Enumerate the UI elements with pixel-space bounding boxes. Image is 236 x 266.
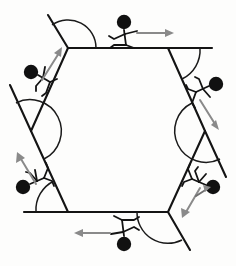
- hexagon-outline: [31, 48, 205, 212]
- arc-exterior-angle-bottom-right: [137, 212, 182, 243]
- arrow-head-up-left: [16, 152, 25, 163]
- walker-top-arm-back: [109, 34, 125, 39]
- walker-upper-left-head: [24, 65, 38, 79]
- arrow-head-down-right: [211, 120, 219, 130]
- arrow-head-down-left: [181, 208, 190, 218]
- ray-right: [205, 131, 226, 177]
- extension-rays: [10, 15, 226, 250]
- walker-upper-right: [186, 77, 223, 130]
- walker-bottom-head: [117, 237, 131, 251]
- walker-bottom-velocity-arrow: [74, 229, 110, 237]
- walker-upper-right-head: [209, 77, 223, 91]
- hexagon-exterior-angles-figure: [0, 0, 236, 266]
- arrow-head-right: [165, 29, 174, 37]
- arrow-shaft-down-right: [200, 100, 215, 124]
- walker-lower-right-arm-back: [199, 174, 206, 182]
- exterior-angle-arcs: [16, 20, 220, 243]
- walker-lower-left-leg-back: [44, 163, 48, 178]
- walker-bottom-leg-front: [114, 216, 122, 220]
- walker-top-velocity-arrow: [137, 29, 174, 37]
- walker-upper-right-arm-back: [203, 89, 210, 97]
- ray-left: [10, 85, 31, 131]
- walker-top-arm-front: [125, 31, 137, 34]
- walker-bottom: [74, 216, 139, 251]
- arrow-head-left: [74, 229, 83, 237]
- walker-lower-right-leg-front: [188, 164, 192, 179]
- walker-bottom-body: [122, 220, 124, 236]
- arc-exterior-angle-top-right: [182, 48, 200, 79]
- walker-bottom-arm-back: [123, 227, 139, 232]
- walker-bottom-leg-back: [122, 217, 139, 220]
- walker-upper-left: [24, 47, 62, 96]
- arc-exterior-angle-bottom-left: [36, 181, 54, 212]
- diagram-canvas: [0, 0, 236, 266]
- walker-lower-left-head: [16, 180, 30, 194]
- walker-top-body: [124, 30, 126, 45]
- edge-lower-right: [168, 131, 205, 212]
- walker-upper-right-leg-front: [192, 92, 196, 108]
- walker-top-head: [117, 15, 131, 29]
- walker-lower-right-velocity-arrow: [181, 188, 200, 218]
- walker-bottom-arm-front: [111, 232, 123, 234]
- walker-upper-right-arm-front: [195, 77, 203, 89]
- walker-lower-left-velocity-arrow: [16, 152, 36, 184]
- walker-lower-left: [16, 152, 54, 194]
- walker-top: [109, 15, 174, 48]
- ray-bottom-right: [168, 212, 190, 250]
- walker-upper-left-velocity-arrow: [42, 47, 62, 80]
- arrow-shaft-down-left: [186, 188, 200, 212]
- edge-lower-left: [31, 131, 68, 212]
